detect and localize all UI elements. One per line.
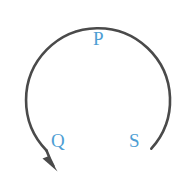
arc-label-s: S	[129, 131, 140, 150]
arc-direction-arrowhead	[43, 156, 58, 172]
figure-canvas: P Q S	[0, 0, 195, 188]
arc-label-q: Q	[51, 131, 65, 150]
arc-label-p: P	[93, 29, 104, 48]
